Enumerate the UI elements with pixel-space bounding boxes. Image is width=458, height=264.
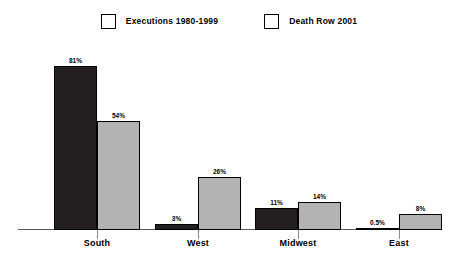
legend-label-death-row: Death Row 2001 bbox=[289, 17, 357, 26]
bar[interactable] bbox=[356, 228, 399, 230]
bar-value-label: 14% bbox=[313, 194, 326, 201]
bar[interactable] bbox=[198, 177, 241, 230]
bar-column[interactable]: 8% bbox=[399, 48, 442, 230]
bar-column[interactable]: 26% bbox=[198, 48, 241, 230]
bar-value-label: 81% bbox=[69, 58, 82, 65]
bar[interactable] bbox=[155, 224, 198, 230]
bar[interactable] bbox=[255, 208, 298, 230]
bar-value-label: 0.5% bbox=[370, 220, 385, 227]
bar-value-label: 8% bbox=[416, 206, 425, 213]
bar-group-bars: 0.5%8% bbox=[356, 48, 442, 230]
category-label-west: West bbox=[187, 239, 209, 248]
bar-group-bars: 3%26% bbox=[155, 48, 241, 230]
bar-column[interactable]: 54% bbox=[97, 48, 140, 230]
bar[interactable] bbox=[54, 66, 97, 230]
bar-value-label: 3% bbox=[172, 216, 181, 223]
category-label-east: East bbox=[389, 239, 409, 248]
bar-value-label: 54% bbox=[112, 113, 125, 120]
bar-column[interactable]: 11% bbox=[255, 48, 298, 230]
bar-column[interactable]: 14% bbox=[298, 48, 341, 230]
bar-group: 11%14% bbox=[255, 48, 341, 230]
bar-group: 81%54% bbox=[54, 48, 140, 230]
legend-swatch-executions bbox=[101, 14, 116, 29]
chart-legend: Executions 1980-1999 Death Row 2001 bbox=[0, 14, 458, 29]
bar-chart: Executions 1980-1999 Death Row 2001 81%5… bbox=[0, 0, 458, 264]
bar-group-bars: 81%54% bbox=[54, 48, 140, 230]
legend-label-executions: Executions 1980-1999 bbox=[126, 17, 218, 26]
legend-item-executions: Executions 1980-1999 bbox=[101, 14, 218, 29]
bar[interactable] bbox=[97, 121, 140, 230]
bar-value-label: 11% bbox=[270, 200, 283, 207]
category-label-south: South bbox=[84, 239, 111, 248]
bar[interactable] bbox=[399, 214, 442, 230]
legend-swatch-death-row bbox=[264, 14, 279, 29]
category-labels: SouthWestMidwestEast bbox=[18, 239, 442, 255]
bar-group: 3%26% bbox=[155, 48, 241, 230]
bar[interactable] bbox=[298, 202, 341, 230]
bar-column[interactable]: 0.5% bbox=[356, 48, 399, 230]
bar-value-label: 26% bbox=[213, 169, 226, 176]
bar-column[interactable]: 3% bbox=[155, 48, 198, 230]
plot-area: 81%54%3%26%11%14%0.5%8% bbox=[18, 48, 442, 230]
category-label-midwest: Midwest bbox=[280, 239, 317, 248]
bar-group: 0.5%8% bbox=[356, 48, 442, 230]
bar-group-bars: 11%14% bbox=[255, 48, 341, 230]
legend-item-death-row: Death Row 2001 bbox=[264, 14, 357, 29]
bar-column[interactable]: 81% bbox=[54, 48, 97, 230]
